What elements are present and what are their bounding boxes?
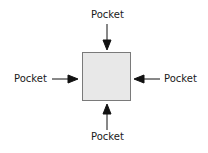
arrow-right-icon <box>52 75 78 83</box>
arrow-up-icon <box>103 104 111 130</box>
pocket-diagram: Pocket Pocket Pocket Pocket <box>0 0 208 153</box>
arrow-down-icon <box>103 24 111 50</box>
arrow-left-icon <box>134 75 160 83</box>
arrows <box>0 0 208 153</box>
